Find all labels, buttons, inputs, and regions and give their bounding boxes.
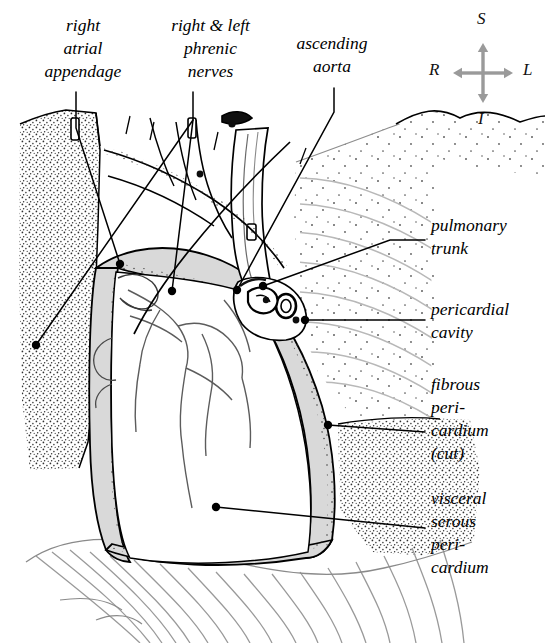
label-pericardial-cavity: pericardialcavity [431,298,543,344]
label-line: peri- [431,533,543,556]
orientation-compass [453,43,513,103]
compass-arrow-inferior [478,73,488,103]
label-line: pulmonary [431,214,543,237]
label-ascending-aorta: ascendingaorta [277,32,387,78]
label-line: aorta [277,55,387,78]
label-line: ascending [277,32,387,55]
label-line: fibrous [431,373,543,396]
label-line: pericardial [431,298,543,321]
leader-phrenic-nerves-secondary-dot [32,341,40,349]
label-line: right & left [148,14,273,37]
compass-arrow-right [453,68,483,78]
label-line: serous [431,510,543,533]
label-line: cardium [431,419,543,442]
label-line: (cut) [431,442,543,465]
compass-label-inferior: I [478,109,484,129]
leader-ascending-aorta-dot [233,286,241,294]
leader-visceral-serous-pericardium-dot [212,503,220,511]
leader-pericardial-cavity-dot [301,316,309,324]
label-right-and-left-phrenic-nerves: right & leftphrenicnerves [148,14,273,83]
label-line: atrial [18,37,148,60]
anatomy-figure: rightatrialappendageright & leftphrenicn… [0,0,545,643]
leader-right-atrial-appendage-dot [116,260,124,268]
compass-label-superior: S [477,9,486,29]
label-line: phrenic [148,37,273,60]
leader-fibrous-pericardium-dot [324,421,332,429]
label-line: right [18,14,148,37]
label-line: cardium [431,556,543,579]
compass-label-right: R [429,60,439,80]
compass-arrow-left [483,68,513,78]
compass-label-left: L [523,60,532,80]
label-line: cavity [431,321,543,344]
label-right-atrial-appendage: rightatrialappendage [18,14,148,83]
label-line: nerves [148,60,273,83]
leader-pulmonary-trunk-dot [259,282,267,290]
label-line: trunk [431,237,543,260]
label-line: visceral [431,487,543,510]
compass-arrow-superior [478,43,488,73]
label-line: peri- [431,396,543,419]
label-visceral-serous-pericardium: visceralserousperi-cardium [431,487,543,579]
label-pulmonary-trunk: pulmonarytrunk [431,214,543,260]
leader-phrenic-nerves-dot [168,287,176,295]
label-fibrous-pericardium-cut: fibrousperi-cardium(cut) [431,373,543,465]
label-line: appendage [18,60,148,83]
